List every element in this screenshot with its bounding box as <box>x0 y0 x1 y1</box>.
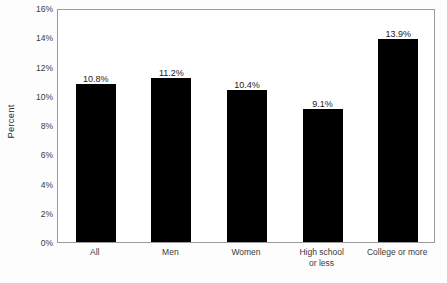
x-axis-category-label: Women <box>208 247 284 258</box>
x-axis-category-label-line: College or more <box>359 247 435 258</box>
bar-value-label: 9.1% <box>293 99 353 109</box>
x-axis-category-label-line: Women <box>208 247 284 258</box>
bar <box>227 90 267 242</box>
bars-layer: 10.8%11.2%10.4%9.1%13.9% <box>58 10 434 242</box>
bar <box>378 39 418 242</box>
x-axis-category-label-line: High school <box>284 247 360 258</box>
bar <box>151 78 191 242</box>
x-axis-category-label-line: Men <box>133 247 209 258</box>
bar-value-label: 11.2% <box>141 68 201 78</box>
x-axis-category-label-line: or less <box>284 258 360 269</box>
x-axis-category-label: Men <box>133 247 209 258</box>
bar-value-label: 10.4% <box>217 80 277 90</box>
plot-area: 10.8%11.2%10.4%9.1%13.9% <box>57 9 435 243</box>
y-axis-tick-labels: 0%2%4%6%8%10%12%14%16% <box>3 0 53 283</box>
y-axis-tick-label: 0% <box>7 238 53 248</box>
x-axis-category-labels: AllMenWomenHigh schoolor lessCollege or … <box>57 247 435 281</box>
x-axis-category-label: High schoolor less <box>284 247 360 269</box>
y-axis-tick-label: 12% <box>7 63 53 73</box>
x-axis-category-label: College or more <box>359 247 435 258</box>
x-axis-category-label: All <box>57 247 133 258</box>
y-axis-tick-label: 14% <box>7 33 53 43</box>
y-axis-tick-label: 16% <box>7 4 53 14</box>
bar <box>303 109 343 242</box>
bar-chart: Percent 0%2%4%6%8%10%12%14%16% 10.8%11.2… <box>0 0 447 283</box>
y-axis-tick-label: 10% <box>7 92 53 102</box>
y-axis-tick-label: 2% <box>7 209 53 219</box>
bar <box>76 84 116 242</box>
x-axis-category-label-line: All <box>57 247 133 258</box>
y-axis-tick-label: 6% <box>7 150 53 160</box>
bar-value-label: 10.8% <box>66 74 126 84</box>
bar-value-label: 13.9% <box>368 29 428 39</box>
y-axis-tick-label: 8% <box>7 121 53 131</box>
y-axis-tick-label: 4% <box>7 180 53 190</box>
